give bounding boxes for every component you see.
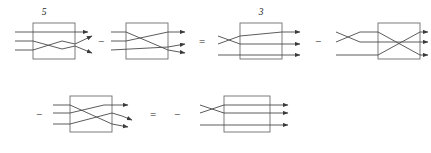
term-3-strand-2 xyxy=(218,32,300,44)
term-5-strand-3 xyxy=(53,113,132,124)
operator-minus-4: − xyxy=(174,108,180,120)
operator-minus-1: − xyxy=(98,35,104,47)
term-5-strand-2 xyxy=(53,105,128,113)
term-5-group xyxy=(53,96,132,132)
term-5-box xyxy=(70,96,112,132)
coefficient-label-3: 3 xyxy=(258,7,264,17)
term-1-box xyxy=(33,23,75,59)
term-4-box xyxy=(378,23,420,59)
coefficient-label-5: 5 xyxy=(42,7,47,17)
operator-equals-1: = xyxy=(199,35,205,47)
braid-equation-figure: 5 − = 3 − xyxy=(0,0,431,153)
term-2-group xyxy=(111,23,185,59)
operator-minus-3: − xyxy=(36,108,42,120)
operator-equals-2: = xyxy=(150,108,156,120)
term-1-strand-2 xyxy=(15,41,92,53)
term-6-strand-2 xyxy=(200,105,288,113)
term-4-group xyxy=(336,23,428,59)
term-2-strand-3 xyxy=(111,44,185,50)
term-2-strand-2 xyxy=(111,32,185,41)
operator-minus-2: − xyxy=(315,35,321,47)
term-6-box xyxy=(224,96,270,132)
term-6-group xyxy=(200,96,288,132)
term-3-group: 3 xyxy=(218,7,300,59)
term-3-box xyxy=(240,23,282,59)
term-1-group: 5 xyxy=(15,7,92,59)
term-4-strand-1 xyxy=(336,32,428,42)
